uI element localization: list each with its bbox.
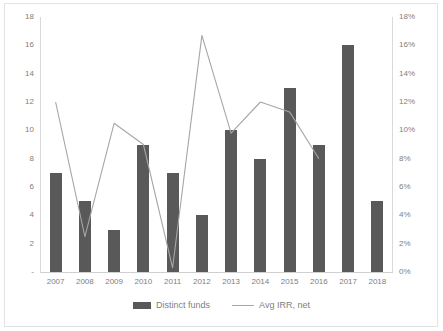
y-axis-right-tick-label: 12%	[399, 97, 429, 107]
y-axis-left-tick-label: 12	[10, 97, 34, 107]
bar-series-distinct-funds	[41, 17, 392, 272]
bar	[137, 145, 149, 273]
legend-item-distinct-funds[interactable]: Distinct funds	[133, 300, 210, 310]
bar	[284, 88, 296, 272]
y-axis-right-tick-label: 6%	[399, 182, 429, 192]
bar	[167, 173, 179, 272]
y-axis-right-tick-label: 10%	[399, 125, 429, 135]
y-axis-right-line	[392, 17, 393, 272]
x-axis-line	[40, 272, 393, 273]
y-axis-right-tick-label: 14%	[399, 69, 429, 79]
legend-item-avg-irr[interactable]: Avg IRR, net	[232, 300, 310, 310]
y-axis-right-tick-label: 16%	[399, 40, 429, 50]
chart-legend: Distinct funds Avg IRR, net	[0, 300, 443, 310]
legend-label: Distinct funds	[156, 300, 210, 310]
bar	[313, 145, 325, 273]
y-axis-right-tick-label: 4%	[399, 210, 429, 220]
bar	[342, 45, 354, 272]
bar	[79, 201, 91, 272]
y-axis-left-tick-label: 8	[10, 154, 34, 164]
y-axis-left-tick-label: 18	[10, 12, 34, 22]
y-axis-left-tick-label: 10	[10, 125, 34, 135]
x-axis-tick-label: 2018	[360, 277, 394, 287]
bar	[254, 159, 266, 272]
legend-label: Avg IRR, net	[259, 300, 310, 310]
bar	[225, 130, 237, 272]
y-axis-left-tick-label: 2	[10, 239, 34, 249]
bar	[196, 215, 208, 272]
bar	[371, 201, 383, 272]
y-axis-left-tick-label: -	[10, 267, 34, 277]
y-axis-left-tick-label: 16	[10, 40, 34, 50]
chart-container: -24681012141618 0%2%4%6%8%10%12%14%16%18…	[0, 0, 443, 331]
line-swatch-icon	[232, 305, 254, 306]
y-axis-right-tick-label: 18%	[399, 12, 429, 22]
y-axis-right-tick-label: 8%	[399, 154, 429, 164]
y-axis-left-tick-label: 6	[10, 182, 34, 192]
y-axis-right-tick-label: 2%	[399, 239, 429, 249]
bar-swatch-icon	[133, 302, 151, 309]
bar	[50, 173, 62, 272]
y-axis-left-tick-label: 4	[10, 210, 34, 220]
y-axis-right-tick-label: 0%	[399, 267, 429, 277]
bar	[108, 230, 120, 273]
y-axis-left-tick-label: 14	[10, 69, 34, 79]
